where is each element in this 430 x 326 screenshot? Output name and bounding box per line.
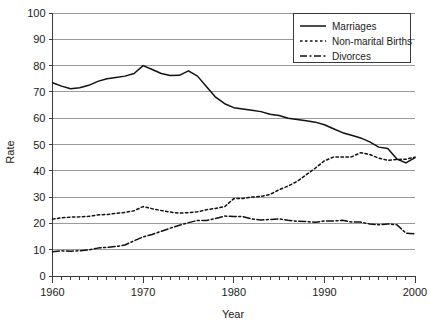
y-tick-label: 0 [39, 270, 45, 282]
series-line-marriages [53, 66, 416, 163]
chart-legend: MarriagesNon-marital BirthsDivorces [294, 14, 413, 63]
y-axis-title: Rate [4, 140, 16, 163]
y-axis: 0102030405060708090100 [27, 7, 52, 282]
legend-label-marriages: Marriages [332, 21, 376, 32]
chart-container: 0102030405060708090100 19601970198019902… [0, 0, 430, 326]
y-tick-label: 30 [33, 191, 45, 203]
x-axis-title-label: Year [222, 308, 245, 320]
x-tick-label: 1980 [222, 286, 246, 298]
x-tick-label: 1960 [40, 286, 64, 298]
y-tick-label: 50 [33, 139, 45, 151]
y-tick-label: 80 [33, 60, 45, 72]
legend-label-divorces: Divorces [332, 51, 371, 62]
y-tick-label: 90 [33, 33, 45, 45]
x-tick-labels: 19601970198019902000 [40, 286, 427, 298]
y-tick-label: 100 [27, 7, 45, 19]
y-axis-title-label: Rate [4, 140, 16, 163]
x-tick-label: 2000 [403, 286, 427, 298]
y-tick-labels: 0102030405060708090100 [27, 7, 45, 282]
y-tick-label: 10 [33, 244, 45, 256]
y-tick-label: 60 [33, 112, 45, 124]
x-axis: 19601970198019902000 [40, 276, 427, 298]
y-tick-label: 70 [33, 86, 45, 98]
x-tick-marks [53, 276, 416, 283]
legend-label-non-marital-births: Non-marital Births [332, 36, 412, 47]
x-tick-label: 1990 [312, 286, 336, 298]
series-line-non-marital-births [53, 153, 416, 220]
x-tick-label: 1970 [131, 286, 155, 298]
y-tick-label: 40 [33, 165, 45, 177]
y-tick-label: 20 [33, 217, 45, 229]
series-line-divorces [53, 216, 416, 252]
x-axis-title: Year [222, 308, 245, 320]
line-chart-figure: 0102030405060708090100 19601970198019902… [0, 0, 430, 326]
